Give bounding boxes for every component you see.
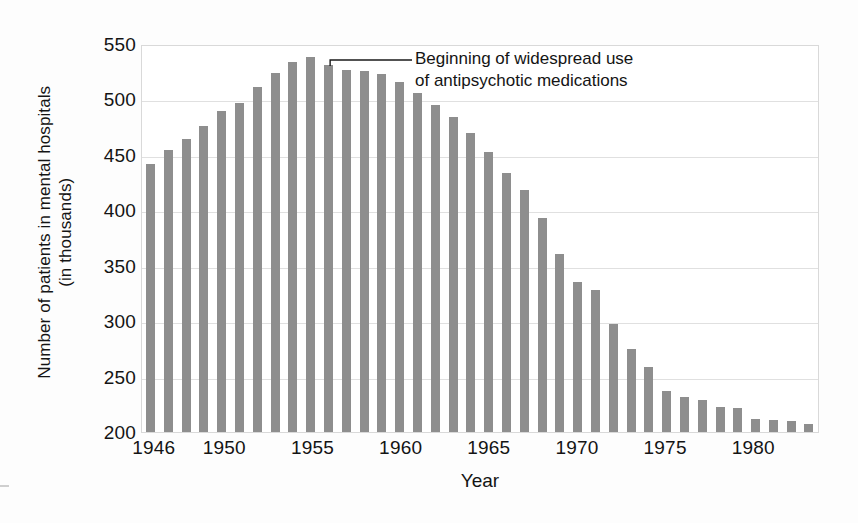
bar-1955 bbox=[306, 57, 315, 432]
bar-series bbox=[142, 46, 818, 432]
bar-1957 bbox=[342, 70, 351, 433]
annotation-text: Beginning of widespread use of antipsych… bbox=[415, 48, 633, 92]
y-axis-tick-350: 350 bbox=[94, 256, 136, 278]
x-axis-tick-1975: 1975 bbox=[644, 437, 687, 459]
page-edge-artifact bbox=[0, 485, 9, 487]
bar-1971 bbox=[591, 290, 600, 432]
bar-1972 bbox=[609, 324, 618, 432]
bar-1978 bbox=[716, 407, 725, 432]
bar-1966 bbox=[502, 173, 511, 432]
y-axis-tick-200: 200 bbox=[94, 422, 136, 444]
bar-1973 bbox=[627, 349, 636, 432]
bar-1977 bbox=[698, 400, 707, 432]
x-axis-tick-1960: 1960 bbox=[379, 437, 422, 459]
bar-1947 bbox=[164, 150, 173, 432]
bar-1960 bbox=[395, 82, 404, 432]
bar-1964 bbox=[466, 133, 475, 432]
y-axis-tick-400: 400 bbox=[94, 200, 136, 222]
bar-1952 bbox=[253, 87, 262, 432]
x-axis-title: Year bbox=[141, 470, 819, 492]
bar-1961 bbox=[413, 93, 422, 432]
y-axis-tick-250: 250 bbox=[94, 367, 136, 389]
bar-1962 bbox=[431, 105, 440, 432]
bar-1950 bbox=[217, 111, 226, 432]
x-axis-tick-1950: 1950 bbox=[203, 437, 246, 459]
y-axis-tick-labels: 550500450400350300250200 bbox=[94, 45, 136, 433]
y-axis-tick-300: 300 bbox=[94, 311, 136, 333]
plot-area bbox=[141, 45, 819, 433]
y-axis-title-line1: Number of patients in mental hospitals bbox=[35, 86, 54, 379]
bar-1946 bbox=[146, 164, 155, 432]
bar-1983 bbox=[804, 424, 813, 432]
bar-1963 bbox=[449, 117, 458, 432]
bar-1967 bbox=[520, 190, 529, 432]
bar-1981 bbox=[769, 420, 778, 432]
bar-1982 bbox=[787, 421, 796, 432]
annotation-line-2: of antipsychotic medications bbox=[415, 70, 633, 92]
bar-1948 bbox=[182, 139, 191, 432]
x-axis-tick-1970: 1970 bbox=[555, 437, 598, 459]
y-axis-title: Number of patients in mental hospitals (… bbox=[10, 30, 100, 435]
bar-1969 bbox=[555, 254, 564, 432]
x-axis-tick-1955: 1955 bbox=[291, 437, 334, 459]
bar-1956 bbox=[324, 65, 333, 432]
bar-1976 bbox=[680, 397, 689, 432]
annotation-line-1: Beginning of widespread use bbox=[415, 48, 633, 70]
y-axis-tick-500: 500 bbox=[94, 89, 136, 111]
bar-1975 bbox=[662, 391, 671, 432]
y-axis-tick-450: 450 bbox=[94, 145, 136, 167]
bar-1965 bbox=[484, 152, 493, 432]
x-axis-tick-labels: 19461950195519601965197019751980 bbox=[141, 437, 819, 467]
x-axis-tick-1980: 1980 bbox=[732, 437, 775, 459]
bar-1951 bbox=[235, 103, 244, 432]
bar-1970 bbox=[573, 282, 582, 432]
bar-1979 bbox=[733, 408, 742, 432]
x-axis-tick-1946: 1946 bbox=[132, 437, 175, 459]
bar-1958 bbox=[360, 71, 369, 432]
bar-1968 bbox=[538, 218, 547, 432]
bar-1959 bbox=[377, 74, 386, 432]
chart-figure: Number of patients in mental hospitals (… bbox=[0, 0, 858, 523]
bar-1949 bbox=[199, 126, 208, 432]
bar-1954 bbox=[288, 62, 297, 432]
y-axis-tick-550: 550 bbox=[94, 34, 136, 56]
bar-1974 bbox=[644, 367, 653, 432]
bar-1980 bbox=[751, 419, 760, 432]
bar-1953 bbox=[271, 73, 280, 432]
y-axis-title-line2: (in thousands) bbox=[55, 86, 76, 379]
x-axis-tick-1965: 1965 bbox=[467, 437, 510, 459]
